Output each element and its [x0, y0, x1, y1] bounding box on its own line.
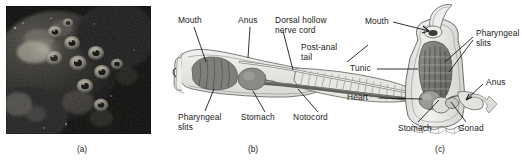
panel-c-label-tunic: Tunic: [350, 64, 371, 74]
panel-c-label-gonad: Gonad: [458, 124, 484, 134]
panel-c-label-heart: Heart: [347, 93, 368, 103]
panel-c-caption: (c): [420, 144, 460, 154]
panel-c-label-anus: Anus: [486, 78, 506, 88]
panel-c-label-pharyngeal-slits: Pharyngeal slits: [476, 29, 519, 48]
figure-three-panel-chordates: (a): [0, 0, 522, 167]
panel-c-diagram: [0, 0, 522, 167]
panel-c-label-mouth: Mouth: [365, 17, 389, 27]
panel-c-label-stomach: Stomach: [398, 124, 432, 134]
